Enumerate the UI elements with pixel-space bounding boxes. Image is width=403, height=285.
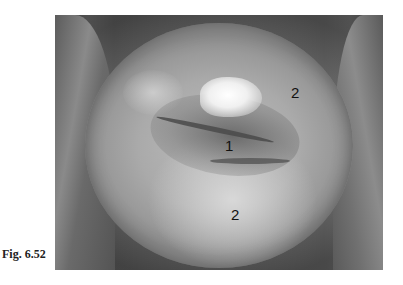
specular-highlight bbox=[200, 77, 262, 117]
label-1: 1 bbox=[225, 138, 233, 153]
opening-line-lower bbox=[210, 158, 290, 164]
figure-caption: Fig. 6.52 bbox=[2, 247, 46, 262]
figure-photo bbox=[55, 15, 383, 270]
label-2-lower: 2 bbox=[231, 207, 239, 222]
label-2-upper: 2 bbox=[291, 85, 299, 100]
